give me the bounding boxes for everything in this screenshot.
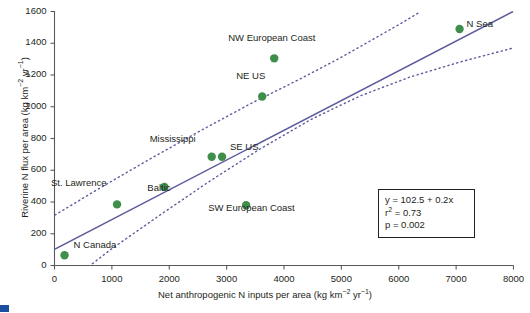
data-point-label: Baltic: [147, 182, 170, 193]
p-value-line: p = 0.002: [385, 219, 468, 232]
x-tick-label: 0: [30, 273, 80, 284]
figure-scatter-plot: 02004006008001000120014001600 0100020003…: [0, 0, 530, 313]
x-tick-label: 5000: [316, 273, 366, 284]
data-point-label: St. Lawrence: [51, 177, 106, 188]
caption-color-bar: [0, 305, 9, 312]
x-tick-label: 6000: [374, 273, 424, 284]
data-point-label: SW European Coast: [208, 202, 295, 213]
y-tick-label: 0: [7, 259, 47, 270]
data-point: [258, 92, 266, 100]
data-point: [455, 25, 463, 33]
data-point-label: NW European Coast: [228, 32, 315, 43]
y-axis-ticks: [51, 12, 55, 266]
data-point: [208, 153, 216, 161]
data-point-label: NE US: [236, 70, 265, 81]
data-point: [218, 153, 226, 161]
equation-annotation-box: y = 102.5 + 0.2x r2 = 0.73 p = 0.002: [378, 189, 475, 238]
data-point-label: N Canada: [74, 239, 117, 250]
data-point: [60, 251, 68, 259]
x-tick-label: 7000: [431, 273, 481, 284]
lower-confidence-band: [78, 48, 513, 275]
r-squared-line: r2 = 0.73: [385, 207, 468, 220]
data-point-label: N Sea: [467, 18, 493, 29]
x-tick-label: 2000: [144, 273, 194, 284]
x-axis-ticks: [55, 266, 514, 270]
data-point: [270, 54, 278, 62]
x-tick-label: 3000: [202, 273, 252, 284]
data-point: [113, 200, 121, 208]
x-tick-label: 8000: [489, 273, 530, 284]
data-point-label: Mississippi: [150, 133, 196, 144]
plot-canvas: [0, 0, 530, 313]
y-tick-label: 1600: [7, 5, 47, 16]
x-axis-title: Net anthropogenic N inputs per area (kg …: [0, 289, 530, 300]
equation-line: y = 102.5 + 0.2x: [385, 194, 468, 207]
x-tick-label: 4000: [259, 273, 309, 284]
x-tick-label: 1000: [87, 273, 137, 284]
data-point-label: SE US: [230, 141, 259, 152]
y-axis-title: Riverine N flux per area (kg km−2 yr−1): [19, 18, 30, 258]
